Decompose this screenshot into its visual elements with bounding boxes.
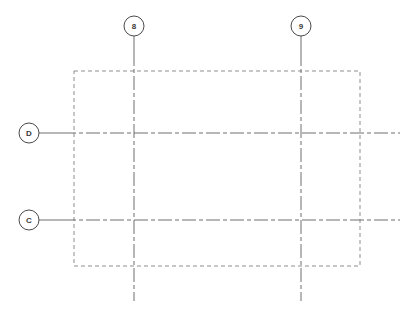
- grid-bubble-d[interactable]: D: [19, 123, 39, 143]
- cad-drawing: 8 9 D C: [0, 0, 412, 314]
- grid-bubble-9-label: 9: [299, 22, 304, 31]
- drawing-canvas: 8 9 D C: [0, 0, 412, 314]
- grid-bubble-8[interactable]: 8: [124, 16, 144, 36]
- grid-bubble-9[interactable]: 9: [291, 16, 311, 36]
- grid-bubble-8-label: 8: [132, 22, 137, 31]
- grid-bubble-c[interactable]: C: [19, 210, 39, 230]
- grid-bubble-c-label: C: [26, 216, 32, 225]
- horizontal-gridlines-group: [62, 133, 400, 220]
- slab-outline: [74, 71, 360, 266]
- vertical-gridlines-group: [134, 52, 301, 301]
- bubble-leaders-group: [39, 36, 301, 220]
- grid-bubble-d-label: D: [26, 129, 32, 138]
- row-bubbles-group: D C: [19, 123, 39, 230]
- column-bubbles-group: 8 9: [124, 16, 311, 36]
